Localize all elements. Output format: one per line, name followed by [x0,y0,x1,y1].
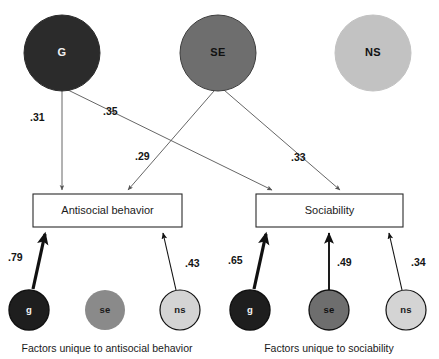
path-diagram-figure: Antisocial behavior Sociability G SE NS [0,0,439,359]
residual-node-ns-left[interactable]: ns [160,290,200,330]
observed-variable-group: Antisocial behavior Sociability [33,194,403,227]
coefficient-ns-right-loading: .34 [411,256,426,268]
residual-node-se-left[interactable]: se [85,290,125,330]
residual-g-right-label: g [247,304,253,315]
residual-node-g-left[interactable]: g [9,290,49,330]
caption-antisocial: Factors unique to antisocial behavior [21,342,193,354]
observed-box-sociability[interactable]: Sociability [256,194,403,227]
loading-ns-right-to-sociability [389,233,402,290]
diagram-canvas: Antisocial behavior Sociability G SE NS [0,0,439,359]
latent-node-ns[interactable]: NS [335,15,411,91]
caption-group: Factors unique to antisocial behavior Fa… [21,342,394,354]
loading-g-left-to-antisocial [33,234,45,289]
latent-factor-group: G SE NS [24,15,411,91]
latent-node-se[interactable]: SE [180,15,256,91]
residual-node-se-right[interactable]: se [309,290,349,330]
path-se-to-antisocial [128,91,214,190]
antisocial-box-label: Antisocial behavior [61,204,154,216]
residual-ns-left-label: ns [174,304,186,315]
residual-ns-right-label: ns [400,304,412,315]
loading-ns-left-to-antisocial [163,233,176,290]
structural-coefficient-group: .31 .35 .29 .33 [30,105,306,163]
residual-factor-group: g se ns g se ns [9,290,426,330]
coefficient-g-right-loading: .65 [228,254,243,266]
residual-g-left-label: g [26,304,32,315]
coefficient-g-left-loading: .79 [8,251,23,263]
observed-box-antisocial[interactable]: Antisocial behavior [33,194,182,227]
loading-g-right-to-sociability [254,234,266,289]
residual-node-g-right[interactable]: g [230,290,270,330]
coefficient-g-sociability: .35 [103,105,118,117]
latent-ns-label: NS [365,46,381,58]
loading-coefficient-group: .79 .43 .65 .49 .34 [8,251,426,269]
coefficient-se-right-loading: .49 [337,256,352,268]
residual-se-left-label: se [100,304,111,315]
coefficient-se-antisocial: .29 [135,150,150,162]
residual-se-right-label: se [324,304,335,315]
latent-se-label: SE [210,46,225,58]
residual-node-ns-right[interactable]: ns [386,290,426,330]
coefficient-se-sociability: .33 [291,151,306,163]
caption-sociability: Factors unique to sociability [264,342,394,354]
coefficient-ns-left-loading: .43 [185,257,200,269]
coefficient-g-antisocial: .31 [30,111,45,123]
sociability-box-label: Sociability [305,204,355,216]
latent-g-label: G [58,46,67,58]
latent-node-g[interactable]: G [24,15,100,91]
